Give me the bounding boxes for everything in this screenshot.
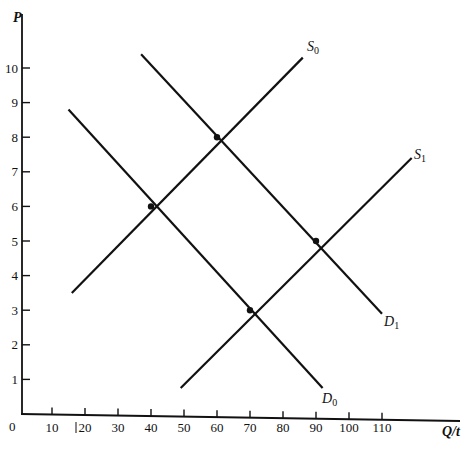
axes: PQ/t0	[9, 10, 461, 439]
x-tick-label: 90	[310, 420, 323, 435]
x-tick-label: 100	[339, 420, 359, 435]
curve-labels: D0D1S0S1	[307, 39, 426, 408]
y-axis-title: P	[13, 10, 22, 25]
supply-demand-chart: PQ/t0 1234567891010203040506070809010011…	[0, 0, 474, 449]
label-s1: S1	[414, 147, 426, 164]
curve-d1	[141, 54, 382, 314]
y-tick-label: 3	[12, 303, 19, 318]
y-tick-label: 10	[5, 61, 18, 76]
x-tick-label: 50	[178, 420, 191, 435]
equilibrium-dot	[214, 134, 220, 140]
x-tick-label: 10	[46, 420, 59, 435]
label-d1: D1	[383, 314, 399, 331]
y-tick-label: 4	[12, 268, 19, 283]
equilibrium-dot	[148, 203, 154, 209]
y-tick-label: 6	[12, 199, 19, 214]
label-subscript: 0	[314, 45, 319, 56]
x-axis-title: Q/t	[442, 424, 461, 439]
curves	[69, 54, 412, 388]
x-tick-label: 70	[244, 420, 257, 435]
x-tick-label: 60	[211, 420, 224, 435]
label-d0: D0	[321, 391, 337, 408]
origin-label: 0	[9, 419, 16, 434]
x-tick-label: 30	[112, 420, 125, 435]
x-tick-label: 40	[145, 420, 158, 435]
y-tick-label: 9	[12, 95, 19, 110]
equilibrium-dot	[313, 238, 319, 244]
label-s0: S0	[307, 39, 319, 56]
equilibrium-dot	[247, 307, 253, 313]
curve-s0	[72, 58, 303, 293]
x-tick-label: 20	[79, 420, 92, 435]
x-tick-label: 110	[372, 420, 391, 435]
x-tick-label: 80	[277, 420, 290, 435]
curve-s1	[181, 158, 412, 388]
y-tick-label: 1	[12, 372, 19, 387]
label-subscript: 1	[421, 153, 426, 164]
y-tick-label: 5	[12, 234, 19, 249]
y-tick-label: 8	[12, 130, 19, 145]
y-tick-label: 2	[12, 337, 19, 352]
y-tick-label: 7	[12, 164, 19, 179]
label-subscript: 0	[332, 397, 337, 408]
curve-d0	[69, 110, 323, 389]
label-subscript: 1	[394, 320, 399, 331]
